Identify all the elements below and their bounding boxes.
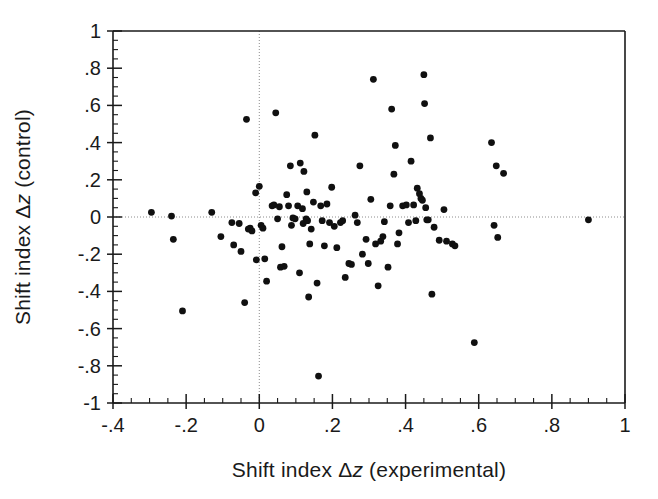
y-tick-label: -.4 [78,280,101,302]
data-point [168,213,175,220]
data-point [419,197,426,204]
data-point [385,264,392,271]
x-tick-label: .2 [324,414,341,436]
x-axis-title: Shift index Δz (experimental) [232,458,506,481]
data-point [230,242,237,249]
y-tick-label: -.2 [78,243,101,265]
data-point [370,76,377,83]
scatter-plot-figure: -.4-.20.2.4.6.81 -1-.8-.6-.4-.20.2.4.6.8… [0,0,658,499]
data-point [493,162,500,169]
data-point [394,241,401,248]
data-point [339,217,346,224]
data-point [260,225,267,232]
y-tick-label: -1 [83,392,101,414]
data-point [279,243,286,250]
data-point [324,201,331,208]
data-point [436,237,443,244]
data-point [261,255,268,262]
data-point [314,280,321,287]
data-point [319,217,326,224]
data-point [315,373,322,380]
data-point [241,299,248,306]
y-tick-label: -.8 [78,355,101,377]
x-tick-label: 0 [254,414,265,436]
data-point [243,116,250,123]
data-point [500,170,507,177]
data-point [292,215,299,222]
data-point [328,184,335,191]
data-point [305,294,312,301]
data-point [281,263,288,270]
data-point [425,216,432,223]
x-tick-label: -.4 [101,414,124,436]
data-point [405,219,412,226]
data-point [352,212,359,219]
data-point [421,100,428,107]
data-point [429,291,436,298]
data-point [488,139,495,146]
data-point [381,218,388,225]
data-point [365,260,372,267]
data-point [380,233,387,240]
data-point [148,209,155,216]
data-point [301,168,308,175]
data-point [306,241,313,248]
data-point [287,162,294,169]
data-point [321,242,328,249]
data-point [356,162,363,169]
data-point [170,236,177,243]
data-point [276,203,283,210]
y-tick-label: 1 [90,20,101,42]
data-point [408,158,415,165]
data-point [304,217,311,224]
data-point [333,244,340,251]
data-point [296,269,303,276]
y-axis-title-text: Shift index Δz (control) [11,109,34,325]
data-point [179,308,186,315]
data-point [403,202,410,209]
data-points [148,71,592,379]
data-point [288,222,295,229]
y-tick-label: 0 [90,206,101,228]
data-point [263,278,270,285]
data-point [427,135,434,142]
y-tick-label: -.6 [78,318,101,340]
axis-ticks [107,31,625,409]
data-point [252,189,259,196]
y-axis-tick-labels: -1-.8-.6-.4-.20.2.4.6.81 [78,20,101,414]
data-point [422,204,429,211]
data-point [297,160,304,167]
data-point [256,183,263,190]
zero-reference-lines [113,31,625,403]
data-point [359,251,366,258]
data-point [253,256,260,263]
y-axis-title: Shift index Δz (control) [11,109,34,325]
data-point [387,202,394,209]
data-point [392,142,399,149]
data-point [236,220,243,227]
data-point [308,226,315,233]
x-tick-label: .4 [397,414,414,436]
x-tick-label: .6 [470,414,487,436]
data-point [238,248,245,255]
data-point [317,202,324,209]
data-point [585,216,592,223]
y-tick-label: .2 [84,169,101,191]
y-tick-label: .6 [84,94,101,116]
data-point [342,274,349,281]
data-point [348,261,355,268]
data-point [283,191,290,198]
data-point [311,132,318,139]
data-point [354,219,361,226]
data-point [471,339,478,346]
data-point [331,223,338,230]
y-tick-label: .8 [84,57,101,79]
data-point [363,236,370,243]
x-axis-title-text: Shift index Δz (experimental) [232,458,506,481]
data-point [388,106,395,113]
data-point [367,196,374,203]
data-point [441,206,448,213]
data-point [217,233,224,240]
data-point [494,234,501,241]
data-point [299,205,306,212]
